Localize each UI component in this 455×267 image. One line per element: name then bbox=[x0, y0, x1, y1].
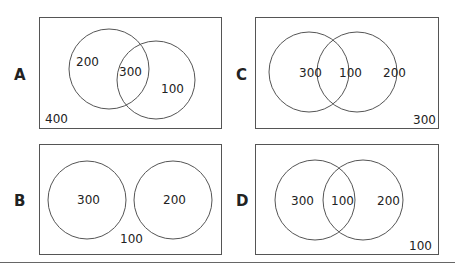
set-circle-right bbox=[117, 41, 195, 119]
panel-a: A 200 300 100 400 bbox=[14, 18, 222, 129]
intersection-value: 100 bbox=[331, 194, 354, 208]
outside-value: 300 bbox=[413, 113, 436, 127]
intersection-value: 100 bbox=[339, 66, 362, 80]
outside-value: 400 bbox=[45, 112, 68, 126]
right-only-value: 100 bbox=[161, 82, 184, 96]
panel-label: D bbox=[236, 192, 248, 210]
right-only-value: 200 bbox=[377, 194, 400, 208]
right-only-value: 200 bbox=[163, 193, 186, 207]
panel-c: C 300 100 200 300 bbox=[236, 18, 439, 129]
panel-label: B bbox=[14, 192, 25, 210]
panel-label: C bbox=[236, 66, 247, 84]
outside-value: 100 bbox=[409, 239, 432, 253]
panel-d: D 300 100 200 100 bbox=[236, 145, 439, 255]
panel-label: A bbox=[14, 66, 26, 84]
venn-diagram-grid: A 200 300 100 400 C 300 100 200 300 B 30… bbox=[0, 0, 455, 267]
left-only-value: 200 bbox=[76, 55, 99, 69]
left-only-value: 300 bbox=[299, 66, 322, 80]
right-only-value: 200 bbox=[383, 66, 406, 80]
intersection-value: 300 bbox=[119, 65, 142, 79]
panel-b: B 300 200 100 bbox=[14, 145, 222, 255]
left-only-value: 300 bbox=[291, 194, 314, 208]
outside-value: 100 bbox=[120, 232, 143, 246]
left-only-value: 300 bbox=[77, 193, 100, 207]
